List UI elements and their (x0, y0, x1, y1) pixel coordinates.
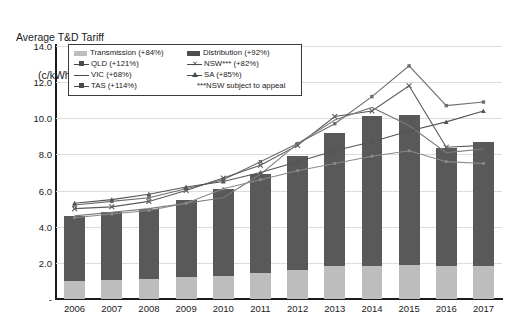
y-axis-tick-label: 8.0 (6, 149, 52, 160)
legend-item-transmission: Transmission (+84%) (74, 48, 183, 58)
y-axis-labels: -2.04.06.08.010.012.014.0 (0, 0, 52, 331)
legend-label-nsw: NSW*** (+82%) (204, 59, 259, 69)
x-axis-tick-label: 2012 (279, 303, 316, 321)
legend-label-transmission: Transmission (+84%) (90, 48, 164, 58)
legend-item-qld: QLD (+121%) (74, 59, 183, 69)
legend-label-vic: VIC (+68%) (91, 70, 132, 80)
y-axis-tick-label: 6.0 (6, 185, 52, 196)
legend-footnote: ***NSW subject to appeal (187, 81, 296, 91)
data-point-marker (371, 155, 374, 158)
x-axis-tick-label: 2017 (465, 303, 502, 321)
legend-item-sa: SA (+85%) (187, 70, 296, 80)
x-axis-tick-label: 2014 (353, 303, 390, 321)
line-series-nsw (72, 83, 486, 211)
nsw-line-marker-icon: ✕ (187, 60, 202, 68)
data-point-marker (73, 216, 76, 219)
legend-item-distribution: Distribution (+92%) (187, 48, 296, 58)
x-axis-tick-label: 2015 (391, 303, 428, 321)
chart-container: Average T&D Tariff (c/kWh) -2.04.06.08.0… (0, 0, 509, 331)
tas-line-marker-icon (74, 82, 89, 90)
x-axis-tick-label: 2010 (205, 303, 242, 321)
legend-item-vic: VIC (+68%) (74, 70, 183, 80)
y-axis-tick-label: 12.0 (6, 77, 52, 88)
data-point-marker (333, 122, 336, 125)
qld-line-marker-icon (74, 60, 89, 68)
y-axis-tick-label: 4.0 (6, 221, 52, 232)
data-point-marker (110, 213, 113, 216)
data-point-marker (333, 162, 336, 165)
line-path (75, 151, 484, 218)
x-axis-tick-label: 2009 (168, 303, 205, 321)
distribution-swatch-icon (187, 51, 200, 56)
line-series-sa (72, 109, 486, 206)
legend-label-tas: TAS (+114%) (91, 81, 137, 91)
data-point-marker (222, 187, 225, 190)
data-point-marker (445, 160, 448, 163)
legend-label-sa: SA (+85%) (204, 70, 242, 80)
line-path (75, 111, 484, 203)
x-axis-tick-label: 2006 (56, 303, 93, 321)
data-point-marker (147, 196, 150, 199)
data-point-marker (185, 202, 188, 205)
x-axis-tick-label: 2013 (316, 303, 353, 321)
y-axis-tick-label: 2.0 (6, 257, 52, 268)
legend-item-nsw: ✕ NSW*** (+82%) (187, 59, 296, 69)
x-axis-tick-label: 2016 (428, 303, 465, 321)
x-axis-tick-label: 2007 (93, 303, 130, 321)
transmission-swatch-icon (74, 51, 87, 56)
sa-line-marker-icon (187, 71, 202, 79)
y-axis-tick-label: - (6, 294, 52, 305)
line-series-tas (73, 149, 485, 219)
x-axis-tick-label: 2008 (130, 303, 167, 321)
x-axis-labels: 2006200720082009201020112012201320142015… (56, 303, 502, 321)
data-point-marker (407, 83, 412, 88)
data-point-marker (296, 169, 299, 172)
data-point-marker (259, 160, 262, 163)
data-point-marker (482, 100, 485, 103)
chart-legend: Transmission (+84%) Distribution (+92%) … (68, 44, 302, 96)
data-point-marker (481, 109, 486, 113)
data-point-marker (408, 149, 411, 152)
legend-label-distribution: Distribution (+92%) (203, 48, 270, 58)
legend-label-qld: QLD (+121%) (91, 59, 139, 69)
vic-line-marker-icon (74, 71, 89, 79)
data-point-marker (407, 64, 410, 67)
x-axis-tick-label: 2011 (242, 303, 279, 321)
data-point-marker (482, 162, 485, 165)
data-point-marker (370, 95, 373, 98)
y-axis-tick-label: 14.0 (6, 41, 52, 52)
line-path (75, 86, 484, 209)
y-axis-tick-label: 10.0 (6, 113, 52, 124)
legend-item-tas: TAS (+114%) (74, 81, 183, 91)
data-point-marker (445, 104, 448, 107)
data-point-marker (259, 178, 262, 181)
data-point-marker (148, 209, 151, 212)
